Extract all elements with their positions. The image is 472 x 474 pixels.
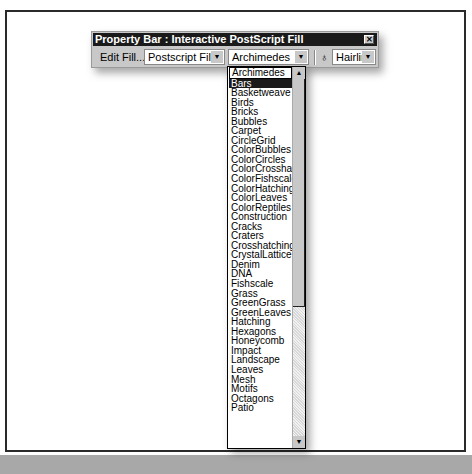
property-bar-title[interactable]: Property Bar : Interactive PostScript Fi… <box>93 33 377 46</box>
outline-pen-icon: ♁ <box>320 51 328 63</box>
pattern-value: Archimedes <box>232 51 290 64</box>
toolbar-separator <box>314 50 315 65</box>
pattern-list: ArchimedesBarsBasketweaveBirdsBricksBubb… <box>229 67 292 413</box>
edit-fill-button[interactable]: Edit Fill... <box>100 51 145 63</box>
title-text: Property Bar : Interactive PostScript Fi… <box>95 33 303 45</box>
chevron-down-icon[interactable]: ▼ <box>295 51 307 63</box>
chevron-down-icon[interactable]: ▼ <box>362 51 374 63</box>
pattern-select[interactable]: Archimedes ▼ <box>228 49 309 65</box>
property-bar: Property Bar : Interactive PostScript Fi… <box>91 31 379 68</box>
scrollbar[interactable]: ▲ ▼ <box>292 67 305 448</box>
pattern-dropdown-list[interactable]: ArchimedesBarsBasketweaveBirdsBricksBubb… <box>227 66 306 449</box>
outline-width-select[interactable]: Hairline ▼ <box>332 49 376 65</box>
scroll-up-icon[interactable]: ▲ <box>293 67 305 79</box>
fill-type-value: Postscript Fill <box>148 51 213 64</box>
fill-type-select[interactable]: Postscript Fill ▼ <box>144 49 225 65</box>
chevron-down-icon[interactable]: ▼ <box>211 51 223 63</box>
close-button[interactable]: ✕ <box>364 35 374 44</box>
list-item[interactable]: Patio <box>229 403 292 413</box>
bottom-strip <box>0 455 472 474</box>
scroll-down-icon[interactable]: ▼ <box>293 436 305 448</box>
scroll-thumb[interactable] <box>293 79 305 307</box>
list-item[interactable]: Archimedes <box>229 67 292 79</box>
close-icon: ✕ <box>366 35 373 44</box>
